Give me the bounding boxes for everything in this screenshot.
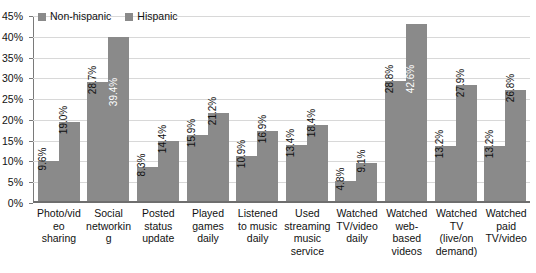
y-tick-label: 25% — [0, 94, 23, 104]
y-tick-label: 30% — [0, 73, 23, 83]
y-tick-mark — [29, 37, 33, 38]
x-axis-line — [33, 201, 530, 203]
chart-legend: Non-hispanic Hispanic — [38, 11, 178, 22]
bar: 14.4% — [158, 141, 179, 201]
bar: 26.8% — [505, 90, 526, 201]
bar: 8.3% — [137, 167, 158, 201]
bar-group: 4.8%9.1% — [332, 16, 382, 201]
bar: 27.9% — [456, 85, 477, 201]
bar: 9.1% — [356, 163, 377, 201]
x-axis-label: Watched TV/video daily — [332, 207, 382, 257]
bar-value-label: 28.7% — [87, 38, 108, 82]
bar-value-label: 13.2% — [435, 102, 456, 146]
legend-item-non-hispanic: Non-hispanic — [38, 11, 111, 22]
y-tick-mark — [29, 78, 33, 79]
bar-value-label: 18.4% — [307, 81, 328, 125]
y-tick-mark — [29, 141, 33, 142]
y-tick-mark — [29, 99, 33, 100]
y-tick-label: 40% — [0, 32, 23, 42]
x-axis-label: Played games daily — [183, 207, 233, 257]
x-axis-label: Watched paid TV/video — [481, 207, 531, 257]
bar-group: 28.8%42.6% — [381, 16, 431, 201]
bar: 10.9% — [236, 156, 257, 201]
bar-value-label: 21.2% — [208, 69, 229, 113]
bar-value-label: 4.8% — [335, 137, 356, 181]
bar: 39.4% — [108, 37, 129, 201]
bar: 13.2% — [484, 146, 505, 201]
bar-group: 10.9%16.9% — [232, 16, 282, 201]
bar-group: 28.7%39.4% — [84, 16, 134, 201]
legend-swatch-non-hispanic — [38, 13, 46, 21]
bar-value-label: 9.1% — [356, 119, 377, 163]
bar: 21.2% — [208, 113, 229, 201]
y-tick-label: 10% — [0, 156, 23, 166]
x-axis-label: Photo/video sharing — [34, 207, 84, 257]
bar-value-label: 10.9% — [236, 112, 257, 156]
y-tick-label: 15% — [0, 136, 23, 146]
bar-value-label: 13.2% — [484, 102, 505, 146]
y-tick-label: 45% — [0, 11, 23, 21]
bar: 16.9% — [257, 131, 278, 201]
bar-value-label: 28.8% — [385, 37, 406, 81]
plot-area: 45%40%35%30%25%20%15%10%5%0% 9.6%19.0%28… — [33, 16, 530, 203]
bar-value-label: 39.4% — [108, 39, 129, 83]
x-axis-label: Social networking — [84, 207, 134, 257]
bar: 19.0% — [59, 122, 80, 201]
bar: 42.6% — [406, 24, 427, 201]
y-tick-mark — [29, 120, 33, 121]
bar-value-label: 27.9% — [456, 41, 477, 85]
y-tick-mark — [29, 16, 33, 17]
bar: 13.2% — [435, 146, 456, 201]
bar-groups: 9.6%19.0%28.7%39.4%8.3%14.4%15.9%21.2%10… — [34, 16, 530, 201]
bar-group: 13.2%27.9% — [431, 16, 481, 201]
y-tick-mark — [29, 182, 33, 183]
x-axis-label: Used streaming music service — [283, 207, 333, 257]
bar-chart: Non-hispanic Hispanic 45%40%35%30%25%20%… — [0, 0, 536, 273]
bar-group: 13.2%26.8% — [480, 16, 530, 201]
legend-swatch-hispanic — [125, 13, 133, 21]
bar-value-label: 42.6% — [406, 26, 427, 70]
bar-value-label: 19.0% — [59, 78, 80, 122]
y-tick-mark — [29, 161, 33, 162]
legend-item-hispanic: Hispanic — [125, 11, 177, 22]
y-tick-label: 5% — [0, 177, 23, 187]
x-axis-label: Watched TV (live/on demand) — [432, 207, 482, 257]
y-tick-mark — [29, 203, 33, 204]
bar-value-label: 9.6% — [38, 117, 59, 161]
y-tick-label: 35% — [0, 53, 23, 63]
bar-value-label: 13.4% — [286, 101, 307, 145]
x-axis-label: Posted status update — [133, 207, 183, 257]
y-tick-label: 0% — [0, 198, 23, 208]
bar-value-label: 14.4% — [158, 97, 179, 141]
bar-group: 15.9%21.2% — [183, 16, 233, 201]
bar-group: 9.6%19.0% — [34, 16, 84, 201]
bar-value-label: 26.8% — [505, 46, 526, 90]
bar: 28.7% — [87, 82, 108, 201]
bar-value-label: 15.9% — [187, 91, 208, 135]
y-tick-mark — [29, 58, 33, 59]
bar-group: 8.3%14.4% — [133, 16, 183, 201]
x-axis-label: Watched web-based videos — [382, 207, 432, 257]
legend-label-non-hispanic: Non-hispanic — [50, 11, 111, 22]
x-axis-label: Listened to music daily — [233, 207, 283, 257]
bar: 13.4% — [286, 145, 307, 201]
x-axis-labels: Photo/video sharingSocial networkingPost… — [34, 207, 531, 257]
legend-label-hispanic: Hispanic — [137, 11, 177, 22]
y-tick-label: 20% — [0, 115, 23, 125]
bar: 15.9% — [187, 135, 208, 201]
bar: 18.4% — [307, 125, 328, 201]
bar: 4.8% — [335, 181, 356, 201]
bar-group: 13.4%18.4% — [282, 16, 332, 201]
bar: 9.6% — [38, 161, 59, 201]
bar-value-label: 8.3% — [137, 123, 158, 167]
bar: 28.8% — [385, 81, 406, 201]
bar-value-label: 16.9% — [257, 87, 278, 131]
